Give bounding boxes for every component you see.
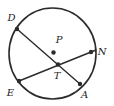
label-D: D <box>6 12 15 23</box>
label-E: E <box>6 87 15 98</box>
chord-D-A <box>17 29 80 84</box>
label-N: N <box>97 46 108 57</box>
point-T-dot <box>56 62 60 66</box>
point-A-dot <box>78 82 82 86</box>
label-P: P <box>55 34 63 45</box>
point-P-dot <box>51 50 55 54</box>
point-N-dot <box>89 50 93 54</box>
label-A: A <box>80 89 88 100</box>
point-D-dot <box>15 27 19 31</box>
geometry-diagram: DPNTEA <box>0 0 114 106</box>
geometry-figure-canvas: DPNTEA <box>0 0 114 106</box>
point-E-dot <box>17 79 21 83</box>
label-T: T <box>54 70 62 81</box>
